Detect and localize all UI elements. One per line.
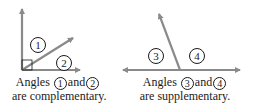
caption-line2: are supplementary. [134,90,236,102]
angle-label-4: 4 [189,48,205,64]
caption-angle-4: 4 [213,77,226,90]
caption-angle-3: 3 [181,77,194,90]
caption-angle-1: 1 [54,77,67,90]
caption-angle-2: 2 [86,77,99,90]
angle-label-2: 2 [56,55,72,71]
caption-line2: are complementary. [12,90,104,102]
complementary-caption: Angles 1and2 are complementary. [12,76,104,102]
caption-conjunction: and [68,75,85,89]
supplementary-angles-figure [123,14,240,70]
angle-label-3: 3 [148,48,164,64]
supplementary-caption: Angles 3and4 are supplementary. [134,76,236,102]
angle-label-1: 1 [30,37,46,53]
caption-prefix: Angles [143,75,177,89]
caption-prefix: Angles [16,75,50,89]
slanted-ray [159,14,180,70]
caption-conjunction: and [195,75,212,89]
